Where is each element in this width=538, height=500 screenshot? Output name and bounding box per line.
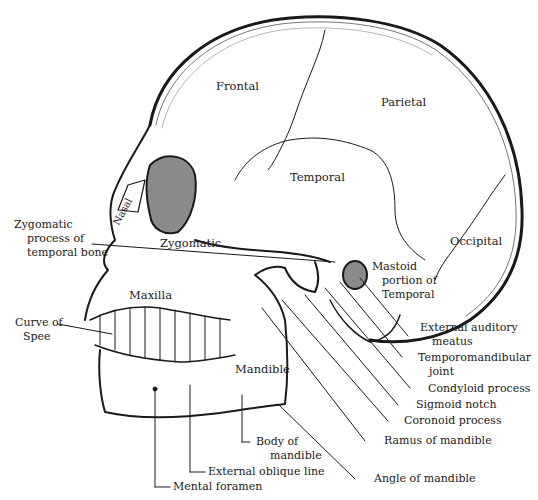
label-mastoid-2: portion of xyxy=(382,274,437,287)
callout-body-of-mandible-2: mandible xyxy=(270,449,322,462)
label-frontal: Frontal xyxy=(216,80,259,93)
label-mastoid-3: Temporal xyxy=(382,288,434,301)
label-temporal: Temporal xyxy=(290,171,345,184)
orbit xyxy=(147,156,196,233)
callout-mental-foramen: Mental foramen xyxy=(173,480,262,493)
callout-ramus-of-mandible: Ramus of mandible xyxy=(384,434,492,447)
callout-temporomandibular-joint-1: Temporomandibular xyxy=(418,351,531,364)
label-zygomatic: Zygomatic xyxy=(160,237,221,250)
callout-zygomatic-process-1: Zygomatic xyxy=(14,218,73,231)
callout-angle-of-mandible: Angle of mandible xyxy=(374,472,476,485)
coronal-suture xyxy=(268,30,325,170)
mental-foramen-dot xyxy=(153,387,157,391)
external-auditory-meatus xyxy=(343,261,367,289)
label-occipital: Occipital xyxy=(450,235,502,248)
callout-temporomandibular-joint-2: joint xyxy=(429,365,454,378)
mandible-outline xyxy=(99,262,318,417)
label-parietal: Parietal xyxy=(381,96,426,109)
callout-curve-of-spee-2: Spee xyxy=(23,330,51,343)
lambdoid-suture xyxy=(435,175,505,280)
label-mastoid-1: Mastoid xyxy=(372,260,417,273)
callout-external-auditory-meatus-2: meatus xyxy=(432,335,473,348)
callout-external-oblique-line: External oblique line xyxy=(208,465,325,478)
callout-external-auditory-meatus-1: External auditory xyxy=(420,321,518,334)
callout-sigmoid-notch: Sigmoid notch xyxy=(416,398,497,411)
callout-curve-of-spee-1: Curve of xyxy=(15,316,63,329)
squamous-suture xyxy=(235,138,425,260)
label-maxilla: Maxilla xyxy=(129,289,172,302)
label-mandible: Mandible xyxy=(235,363,290,376)
callout-coronoid-process: Coronoid process xyxy=(404,414,502,427)
lower-teeth xyxy=(95,345,235,362)
callout-zygomatic-process-3: temporal bone xyxy=(27,246,108,259)
callout-zygomatic-process-2: process of xyxy=(27,232,84,245)
callout-condyloid-process: Condyloid process xyxy=(428,382,530,395)
callout-body-of-mandible-1: Body of xyxy=(256,435,298,448)
